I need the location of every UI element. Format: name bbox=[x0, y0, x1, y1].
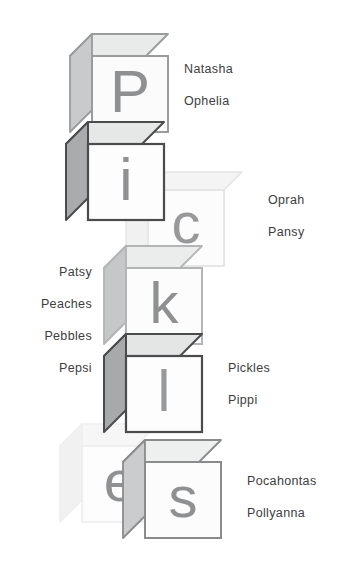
block-k-letter: k bbox=[150, 270, 180, 335]
block-s-letter: s bbox=[169, 464, 198, 529]
block-l-left-face bbox=[104, 334, 126, 432]
label-ophelia: Ophelia bbox=[184, 95, 230, 108]
label-pollyanna: Pollyanna bbox=[247, 507, 305, 520]
label-pickles: Pickles bbox=[228, 362, 270, 375]
label-pocahontas: Pocahontas bbox=[247, 475, 317, 488]
label-natasha: Natasha bbox=[184, 63, 233, 76]
illustration-canvas: c e P i bbox=[0, 0, 345, 581]
block-s-left-face bbox=[123, 440, 145, 538]
label-patsy: Patsy bbox=[0, 266, 92, 279]
label-pansy: Pansy bbox=[268, 226, 305, 239]
block-l-letter: l bbox=[158, 358, 171, 423]
label-peaches: Peaches bbox=[0, 298, 92, 311]
block-i-letter: i bbox=[119, 146, 132, 213]
label-oprah: Oprah bbox=[268, 194, 305, 207]
block-p-left-face bbox=[70, 34, 92, 132]
block-p-letter: P bbox=[110, 58, 150, 125]
block-i-left-face bbox=[66, 122, 88, 220]
label-pepsi: Pepsi bbox=[0, 362, 92, 375]
block-e-left-face bbox=[60, 424, 82, 522]
label-pippi: Pippi bbox=[228, 394, 258, 407]
label-pebbles: Pebbles bbox=[0, 330, 92, 343]
block-k-left-face bbox=[104, 246, 126, 344]
